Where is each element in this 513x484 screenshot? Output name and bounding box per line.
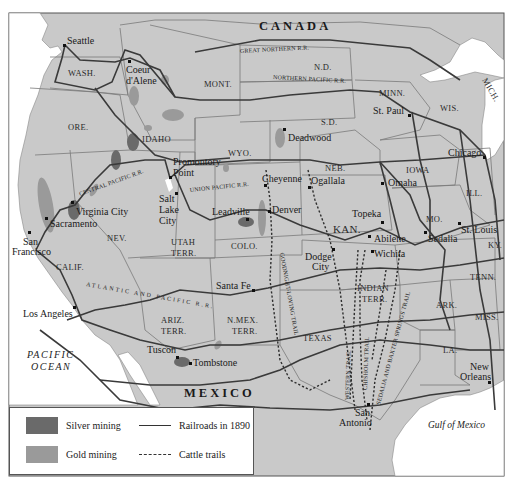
label-san-antonio-2: Antonio	[339, 417, 372, 428]
label-mo: MO.	[426, 214, 443, 224]
label-slc-1: Salt	[159, 193, 175, 204]
label-wyo: WYO.	[228, 148, 252, 158]
label-ariz-2: TERR.	[161, 326, 186, 336]
label-nev: NEV.	[107, 233, 127, 243]
legend-item-trails: Cattle trails	[139, 449, 225, 460]
label-omaha: Omaha	[388, 177, 417, 188]
label-indian-2: TERR.	[362, 294, 387, 304]
label-ogallala: Ogallala	[311, 175, 345, 186]
label-sedalia: Sedalia	[428, 233, 458, 244]
label-deadwood: Deadwood	[288, 132, 331, 143]
label-sacramento: Sacramento	[50, 218, 97, 229]
label-tombstone: Tombstone	[193, 357, 238, 368]
label-pacific-2: OCEAN	[31, 361, 71, 372]
legend-item-silver: Silver mining	[26, 417, 121, 434]
legend-label-silver: Silver mining	[66, 420, 121, 431]
label-miss: MISS.	[475, 312, 498, 322]
label-denver: Denver	[272, 204, 302, 215]
label-wichita: Wichita	[374, 248, 406, 259]
label-promontory-2: Point	[173, 167, 194, 178]
label-chicago: Chicago	[448, 147, 481, 158]
label-coeur-2: d'Alene	[126, 75, 157, 86]
label-minn: MINN.	[379, 88, 405, 98]
label-colo: COLO.	[231, 241, 258, 251]
label-new-orleans-2: Orleans	[460, 371, 491, 382]
label-santa-fe: Santa Fe	[216, 280, 251, 291]
label-tuscon: Tuscon	[147, 344, 176, 355]
label-abilene: Abilene	[374, 233, 406, 244]
cattle-trail-line-icon	[139, 454, 171, 455]
label-ky: KY.	[488, 240, 502, 250]
label-seattle: Seattle	[67, 35, 95, 46]
label-texas: TEXAS	[303, 333, 332, 343]
label-nd: N.D.	[314, 62, 332, 72]
label-topeka: Topeka	[352, 208, 382, 219]
legend-label-trails: Cattle trails	[179, 449, 225, 460]
label-leadville: Leadville	[212, 206, 250, 217]
legend-item-railroads: Railroads in 1890	[139, 420, 250, 431]
legend-label-railroads: Railroads in 1890	[179, 420, 250, 431]
label-tenn: TENN.	[470, 272, 496, 282]
label-indian-1: INDIAN	[357, 283, 389, 293]
label-slc-2: Lake	[159, 204, 180, 215]
label-ariz-1: ARIZ.	[161, 315, 184, 325]
label-ore: ORE.	[68, 122, 88, 132]
label-canada: CANADA	[259, 19, 331, 33]
label-la: LA.	[443, 345, 457, 355]
legend-item-gold: Gold mining	[26, 446, 117, 463]
legend-label-gold: Gold mining	[66, 449, 117, 460]
label-wis: WIS.	[440, 103, 459, 113]
label-utah-2: TERR.	[171, 248, 196, 258]
label-gulf-of-mexico: Gulf of Mexico	[428, 420, 485, 430]
label-promontory-1: Promontory	[173, 156, 221, 167]
label-nmex-2: TERR.	[232, 326, 257, 336]
silver-mining-swatch	[26, 417, 58, 434]
label-kan: KAN.	[333, 223, 361, 235]
label-utah-1: UTAH	[171, 237, 195, 247]
label-dodge-2: City	[312, 261, 329, 272]
map-legend: Silver mining Gold mining Railroads in 1…	[9, 407, 254, 475]
label-sf-2: Francisco	[12, 246, 51, 257]
label-coeur-1: Coeur	[126, 64, 151, 75]
label-slc-3: City	[159, 215, 176, 226]
label-sd: S.D.	[321, 117, 337, 127]
label-mont: MONT.	[204, 79, 232, 89]
label-virginia-city: Virginia City	[76, 206, 128, 217]
label-st-louis: St. Louis	[461, 224, 497, 235]
label-ill: ILL.	[466, 188, 483, 198]
label-calif: CALIF.	[56, 262, 84, 272]
label-cheyenne: Cheyenne	[262, 173, 303, 184]
label-nmex-1: N.MEX.	[227, 315, 258, 325]
label-pacific-1: PACIFIC	[26, 349, 75, 360]
label-los-angeles: Los Angeles	[23, 308, 73, 319]
label-st-paul: St. Paul	[373, 105, 404, 116]
label-ark: ARK.	[436, 300, 457, 310]
label-idaho: IDAHO	[142, 134, 171, 144]
label-mexico: MEXICO	[184, 386, 255, 400]
label-neb: NEB.	[325, 163, 345, 173]
railroad-line-icon	[139, 425, 171, 426]
label-wash: WASH.	[68, 68, 96, 78]
gold-mining-swatch	[26, 446, 58, 463]
label-iowa: IOWA	[406, 165, 430, 175]
